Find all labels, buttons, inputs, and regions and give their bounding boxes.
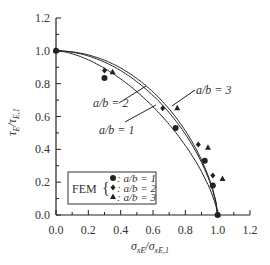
plot-area: 0.00.20.40.60.81.01.20.00.20.40.60.81.01… — [0, 0, 270, 265]
label-ab2: a/b = 2 — [93, 96, 128, 110]
x-tick-label: 0.4 — [113, 223, 128, 237]
y-tick-label: 0.8 — [35, 77, 50, 91]
x-tick-label: 0.0 — [49, 223, 64, 237]
svg-text:{: { — [102, 180, 110, 197]
y-axis-label: τE/τE,1 — [5, 108, 21, 136]
x-tick-label: 1.2 — [243, 223, 258, 237]
y-tick-label: 1.0 — [35, 44, 50, 58]
legend-entry: : a/b = 3 — [117, 191, 156, 203]
y-tick-label: 0.2 — [35, 175, 50, 189]
x-axis-label: σxE/σxE,1 — [131, 239, 169, 255]
legend: FEM{: a/b = 1: a/b = 2: a/b = 3 — [68, 172, 156, 204]
y-tick-label: 0.6 — [35, 110, 50, 124]
x-tick-label: 0.6 — [146, 223, 161, 237]
y-tick-label: 0.4 — [35, 142, 50, 156]
legend-title: FEM — [72, 182, 97, 196]
y-tick-label: 1.2 — [35, 11, 50, 25]
x-tick-label: 0.8 — [178, 223, 193, 237]
label-ab3: a/b = 3 — [196, 83, 231, 97]
chart: 0.00.20.40.60.81.01.20.00.20.40.60.81.01… — [0, 0, 270, 265]
x-tick-label: 0.2 — [81, 223, 96, 237]
y-tick-label: 0.0 — [35, 208, 50, 222]
x-tick-label: 1.0 — [210, 223, 225, 237]
label-ab1: a/b = 1 — [99, 123, 134, 137]
